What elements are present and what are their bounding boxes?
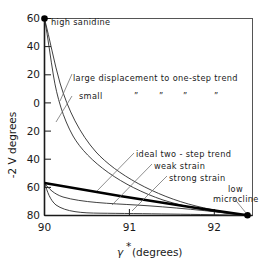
label-ideal-two-step: ideal two - step trend (136, 149, 231, 159)
label-strong-strain: strong strain (169, 173, 226, 183)
x-tick-label-91: 91 (123, 221, 136, 233)
label-small: small (79, 91, 103, 101)
y-tick-label-0: 0 (33, 97, 40, 109)
x-axis-tick-labels: 90 91 92 (38, 221, 221, 233)
plot-frame (45, 19, 253, 216)
x-axis-title: γ * (degrees) (117, 240, 182, 258)
plot-svg: 60 40 20 0 20 40 60 80 90 91 92 -2 V deg… (0, 0, 270, 271)
endpoint-marker-low-microcline (244, 212, 251, 219)
y-tick-label-m80: 80 (27, 209, 40, 221)
y-tick-label-40: 40 (27, 40, 40, 52)
y-tick-label-60: 60 (27, 12, 40, 24)
x-tick-label-92: 92 (208, 221, 221, 233)
label-low-microcline-line2: microcline (213, 194, 259, 204)
ditto-mark-3: ” (183, 91, 187, 101)
y-tick-label-m20: 20 (27, 125, 40, 137)
ditto-mark-4: ” (214, 91, 218, 101)
frame-rect (45, 19, 253, 216)
x-axis-title-symbol: γ (117, 246, 124, 258)
x-tick-label-90: 90 (38, 221, 51, 233)
y-axis-tick-labels: 60 40 20 0 20 40 60 80 (27, 12, 40, 221)
label-large-displacement: large displacement to one-step trend (73, 73, 238, 83)
y-tick-label-20: 20 (27, 68, 40, 80)
y-axis-title: -2 V degrees (6, 112, 18, 179)
ditto-mark-1: ” (134, 91, 138, 101)
figure-container: 60 40 20 0 20 40 60 80 90 91 92 -2 V deg… (0, 0, 270, 271)
x-axis-title-units: (degrees) (132, 246, 182, 258)
x-axis-title-star: * (126, 240, 131, 252)
endpoint-marker-high-sanidine (41, 15, 48, 22)
ditto-mark-2: ” (159, 91, 163, 101)
y-tick-label-m40: 40 (27, 153, 40, 165)
label-low-microcline-line1: low (228, 184, 243, 194)
label-weak-strain: weak strain (154, 161, 205, 171)
y-tick-label-m60: 60 (27, 181, 40, 193)
label-high-sanidine: high sanidine (51, 17, 110, 27)
